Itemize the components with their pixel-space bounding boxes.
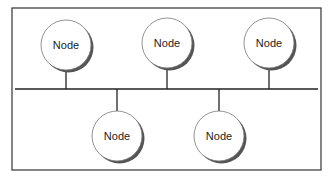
node-label: Node — [154, 37, 180, 49]
node: Node — [92, 111, 145, 164]
node: Node — [194, 111, 247, 164]
node-label: Node — [256, 37, 282, 49]
node-label: Node — [53, 39, 79, 51]
bus-topology-diagram: NodeNodeNodeNodeNode — [0, 0, 331, 181]
node: Node — [41, 20, 94, 73]
node-label: Node — [206, 130, 232, 142]
node: Node — [244, 18, 297, 71]
node: Node — [142, 18, 195, 71]
node-label: Node — [104, 130, 130, 142]
nodes: NodeNodeNodeNodeNode — [41, 18, 297, 164]
